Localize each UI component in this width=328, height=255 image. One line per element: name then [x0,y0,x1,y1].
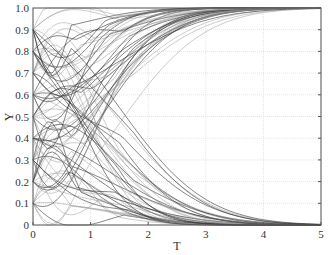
svg-text:3: 3 [203,228,209,240]
svg-text:2: 2 [145,228,151,240]
svg-text:0.8: 0.8 [15,45,29,57]
x-axis-label: T [173,239,181,253]
svg-text:0.3: 0.3 [15,154,29,166]
svg-text:0.5: 0.5 [15,111,29,123]
svg-text:0.6: 0.6 [15,89,29,101]
trajectory-chart: 012345 00.10.20.30.40.50.60.70.80.91.0 T… [0,0,328,255]
svg-text:0: 0 [30,228,36,240]
svg-text:0: 0 [24,219,30,231]
svg-text:0.1: 0.1 [15,197,29,209]
svg-text:0.9: 0.9 [15,24,29,36]
svg-text:1: 1 [88,228,94,240]
y-axis-label: Y [2,112,16,121]
svg-text:1.0: 1.0 [15,2,29,14]
svg-text:0.4: 0.4 [15,132,29,144]
svg-text:0.2: 0.2 [15,176,29,188]
svg-text:4: 4 [261,228,267,240]
svg-text:5: 5 [318,228,324,240]
svg-text:0.7: 0.7 [15,67,29,79]
